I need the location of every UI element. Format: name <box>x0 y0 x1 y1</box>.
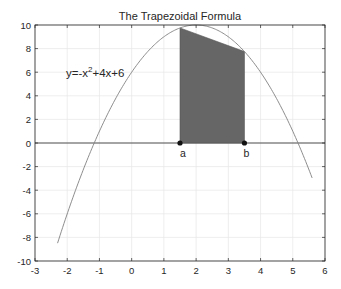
x-tick-label: 0 <box>129 265 134 276</box>
y-tick-label: -8 <box>23 232 31 243</box>
y-tick-label: 10 <box>20 20 31 31</box>
y-tick-label: 0 <box>26 138 31 149</box>
y-tick-label: -4 <box>23 185 31 196</box>
x-tick-label: 3 <box>226 265 231 276</box>
point-b-label: b <box>244 147 250 159</box>
y-tick-label: 2 <box>26 114 31 125</box>
y-tick-label: -6 <box>23 208 31 219</box>
equation-label: y=-x2+4x+6 <box>66 65 124 79</box>
x-tick-label: 5 <box>290 265 295 276</box>
point-b <box>242 140 247 145</box>
y-tick-label: 8 <box>26 43 31 54</box>
x-tick-label: -2 <box>63 265 71 276</box>
y-tick-label: -2 <box>23 161 31 172</box>
x-tick-label: -3 <box>31 265 39 276</box>
x-tick-label: 1 <box>161 265 166 276</box>
x-tick-label: -1 <box>95 265 103 276</box>
point-a-label: a <box>180 147 186 159</box>
y-tick-label: 4 <box>26 90 31 101</box>
y-tick-label: 6 <box>26 67 31 78</box>
chart-title: The Trapezoidal Formula <box>119 10 242 22</box>
x-tick-label: 4 <box>258 265 263 276</box>
x-tick-label: 2 <box>193 265 198 276</box>
trapezoid-chart: -3-2-10123456-10-8-6-4-20246810 The Trap… <box>0 0 341 289</box>
x-tick-label: 6 <box>322 265 327 276</box>
y-tick-label: -10 <box>17 256 31 267</box>
point-a <box>177 140 182 145</box>
